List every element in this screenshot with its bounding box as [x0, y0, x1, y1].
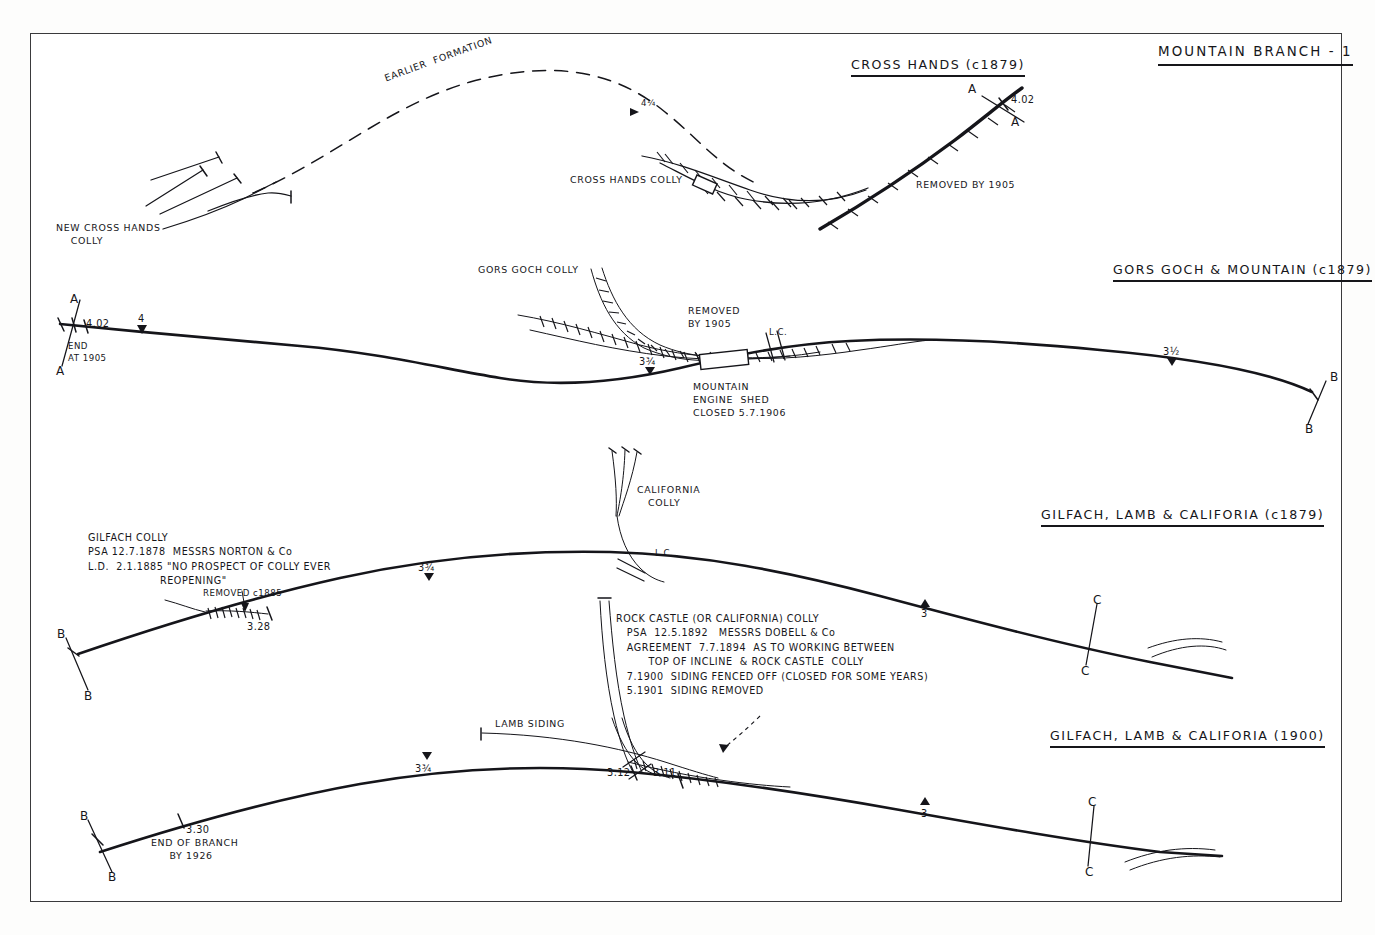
- gilfach-colly-note: GILFACH COLLY PSA 12.7.1878 MESSRS NORTO…: [88, 531, 331, 589]
- milepost-330-label: 3.30: [186, 823, 209, 837]
- rock-castle-colly-note: ROCK CASTLE (OR CALIFORNIA) COLLY PSA 12…: [616, 612, 928, 698]
- removed-c1885-arrowhead: [241, 603, 249, 612]
- section-marker-b-top-p2: B: [1330, 369, 1339, 386]
- section-marker-b-bottom-p2: B: [1305, 421, 1314, 438]
- milepost-3-arrow-p3: [920, 599, 930, 607]
- end-at-1905-label: END AT 1905: [68, 341, 107, 365]
- gilfach-removed-siding-sleepers: [208, 607, 260, 620]
- panel-header-gilfach-1900: GILFACH, LAMB & CALIFORIA (1900): [1050, 727, 1325, 748]
- cross-hands-colly-building: [693, 175, 718, 194]
- milepost-402-p2: 4.02: [86, 317, 109, 331]
- section-marker-b-bottom-p3: B: [84, 688, 93, 705]
- panel-header-gilfach-1879: GILFACH, LAMB & CALIFORIA (c1879): [1041, 506, 1324, 527]
- end-tick-p4: [92, 834, 103, 845]
- level-crossing-label-p3: L.C.: [655, 548, 673, 560]
- new-cross-hands-colly-label: NEW CROSS HANDS COLLY: [56, 222, 161, 248]
- siding-removed-arrowhead: [719, 744, 729, 753]
- removed-c1885-label: REMOVED c1885: [203, 588, 282, 600]
- milepost-334-p2: 3¾: [639, 355, 656, 369]
- section-marker-b-bottom-p4: B: [108, 869, 117, 886]
- siding-curve-p3-b: [1152, 646, 1226, 657]
- lamb-siding-line: [482, 733, 718, 778]
- section-marker-b-top-p4: B: [80, 808, 89, 825]
- section-marker-a-bottom-p2: A: [56, 363, 65, 380]
- milepost-4-quarter: 4¼: [641, 98, 656, 110]
- california-colly-siding-2: [617, 450, 625, 516]
- panel-header-gors-goch: GORS GOCH & MOUNTAIN (c1879): [1113, 261, 1372, 282]
- level-crossing-label-p2: L.C.: [769, 327, 787, 339]
- section-marker-a-bottom-p1: A: [1011, 114, 1020, 131]
- gors-goch-colly-label: GORS GOCH COLLY: [478, 264, 579, 277]
- section-marker-c-top-p4: C: [1088, 794, 1097, 811]
- cross-hands-removed-label: REMOVED BY 1905: [916, 179, 1015, 192]
- milepost-311-p4: 3.11: [653, 766, 676, 780]
- gilfach-1900-main-line: [100, 768, 1222, 856]
- milepost-4q-arrow: [630, 108, 639, 116]
- new-cross-hands-siding-2: [146, 170, 203, 206]
- cross-hands-colly-label: CROSS HANDS COLLY: [570, 174, 683, 187]
- section-line-b-b-left-p3: [66, 638, 88, 690]
- end-tick-p2: [1310, 389, 1318, 400]
- california-colly-siding-1: [612, 451, 616, 516]
- section-line-b-b-right-p2: [1308, 381, 1326, 424]
- cross-hands-main-line: [820, 88, 1022, 229]
- end-of-branch-label: END OF BRANCH BY 1926: [151, 837, 239, 863]
- california-colly-stop-3: [634, 449, 641, 454]
- gors-goch-removed-label: REMOVED BY 1905: [688, 305, 740, 331]
- cross-hands-main-line-sleepers: [828, 105, 1015, 229]
- milepost-3-p4: 3: [921, 807, 928, 821]
- railway-diagram-drawing: [0, 0, 1375, 935]
- siding-removed-pointer: [724, 716, 760, 748]
- section-marker-c-bottom-p4: C: [1085, 864, 1094, 881]
- mountain-engine-shed: [699, 350, 748, 370]
- panel-cross-hands-graphics: [146, 70, 1024, 229]
- milepost-334-p3: 3¾: [418, 561, 435, 575]
- milepost-312-arrow-p2: [1167, 358, 1177, 366]
- section-line-c-c-p4: [1088, 806, 1094, 866]
- section-line-b-b-left-p4: [88, 820, 112, 872]
- milepost-402-top: 4.02: [1011, 93, 1034, 107]
- new-cross-hands-main-curve: [163, 182, 276, 229]
- section-marker-b-top-p3: B: [57, 626, 66, 643]
- section-line-c-c-p3: [1086, 604, 1097, 665]
- milepost-3-arrow-p4: [920, 797, 930, 805]
- new-cross-hands-siding-3: [160, 178, 237, 214]
- california-colly-label: CALIFORNIA COLLY: [637, 484, 700, 510]
- page-title: MOUNTAIN BRANCH - 1: [1158, 43, 1353, 66]
- section-marker-c-bottom-p3: C: [1081, 663, 1090, 680]
- milepost-4-p2: 4: [138, 312, 145, 326]
- section-marker-c-top-p3: C: [1093, 592, 1102, 609]
- mountain-engine-shed-label: MOUNTAIN ENGINE SHED CLOSED 5.7.1906: [693, 381, 786, 420]
- milepost-334-p4: 3¾: [415, 762, 432, 776]
- california-colly-stop-2: [622, 447, 629, 452]
- section-marker-a-top-p1: A: [968, 81, 977, 98]
- section-marker-a-top-p2: A: [70, 291, 79, 308]
- milepost-334-arrow-p4: [422, 752, 432, 760]
- new-cross-hands-siding-1: [151, 157, 219, 180]
- siding-curve-p4-b: [1130, 856, 1220, 870]
- lamb-siding-label: LAMB SIDING: [495, 718, 565, 731]
- panel-header-cross-hands: CROSS HANDS (c1879): [851, 56, 1025, 77]
- milepost-312-p2: 3½: [1163, 345, 1180, 359]
- milepost-312-p4: 3.12: [607, 766, 630, 780]
- panel-gors-goch-mountain-graphics: [58, 268, 1326, 424]
- milepost-328-label: 3.28: [247, 620, 270, 634]
- gilfach-pointer-line: [165, 600, 205, 612]
- drawing-sheet: MOUNTAIN BRANCH - 1 CROSS HANDS (c1879) …: [0, 0, 1375, 935]
